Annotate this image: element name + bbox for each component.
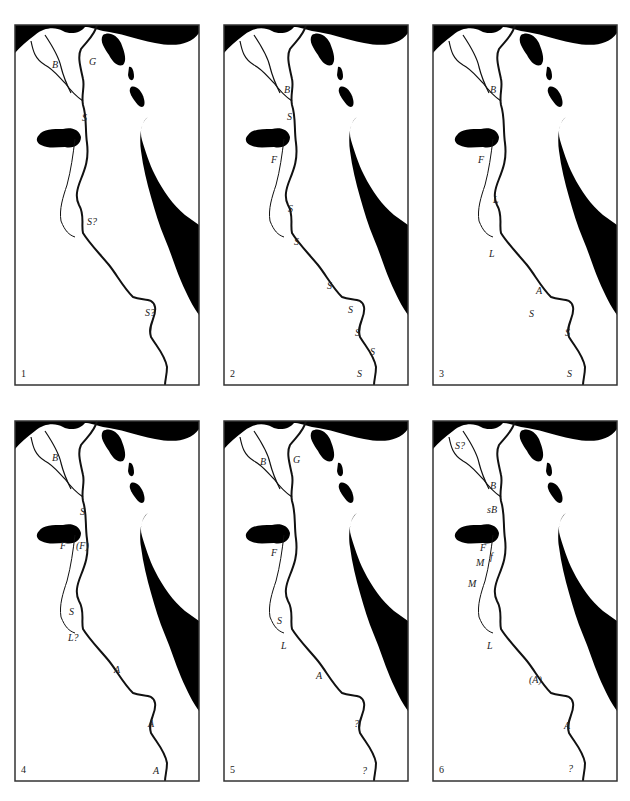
delta-west-branch bbox=[240, 437, 292, 497]
gulf-of-suez bbox=[520, 429, 543, 461]
island-1 bbox=[337, 67, 343, 80]
panel-number: 6 bbox=[439, 765, 444, 775]
site-label: S bbox=[348, 305, 353, 315]
site-label: S? bbox=[455, 441, 465, 451]
site-label: S? bbox=[87, 217, 97, 227]
map-panel-6: S?BsBFMfML(A)A?6 bbox=[433, 421, 617, 781]
island-1 bbox=[337, 463, 343, 476]
delta-west-branch bbox=[31, 437, 83, 497]
panel-number: 1 bbox=[21, 369, 26, 379]
gulf-of-suez bbox=[311, 429, 334, 461]
panel-number: 5 bbox=[230, 765, 235, 775]
gulf-of-suez bbox=[311, 33, 334, 65]
red-sea bbox=[349, 513, 408, 711]
site-label: B bbox=[52, 453, 58, 463]
site-label: M bbox=[476, 558, 484, 568]
island-2 bbox=[548, 483, 563, 503]
site-label: S bbox=[287, 112, 292, 122]
delta-west-branch bbox=[31, 41, 83, 101]
panel-number: 4 bbox=[21, 765, 26, 775]
island-2 bbox=[130, 87, 145, 107]
site-label: S bbox=[288, 204, 293, 214]
site-label: B bbox=[490, 85, 496, 95]
site-label: G bbox=[293, 455, 300, 465]
gulf-of-suez bbox=[102, 33, 125, 65]
gulf-of-suez bbox=[102, 429, 125, 461]
island-2 bbox=[339, 87, 354, 107]
red-sea bbox=[140, 513, 199, 711]
site-label: S bbox=[565, 328, 570, 338]
map-panel-1: BGSS?S?1 bbox=[15, 25, 199, 385]
map-panel-2: BSFSSSSSSS2 bbox=[224, 25, 408, 385]
site-label: B bbox=[260, 457, 266, 467]
panel-number: 2 bbox=[230, 369, 235, 379]
site-label: A bbox=[316, 671, 322, 681]
site-label: F bbox=[271, 548, 277, 558]
site-label: ? bbox=[568, 764, 573, 774]
site-label: ? bbox=[354, 719, 359, 729]
red-sea bbox=[558, 513, 617, 711]
red-sea bbox=[140, 117, 199, 315]
gulf-of-suez bbox=[520, 33, 543, 65]
site-label: S? bbox=[145, 308, 155, 318]
site-label: S bbox=[294, 237, 299, 247]
site-label: S bbox=[529, 309, 534, 319]
site-label: S bbox=[567, 369, 572, 379]
site-label: f bbox=[490, 552, 493, 562]
site-label: A bbox=[114, 665, 120, 675]
red-sea bbox=[558, 117, 617, 315]
site-label: S bbox=[80, 507, 85, 517]
site-label: B bbox=[490, 481, 496, 491]
site-label: (F) bbox=[76, 541, 89, 551]
delta-mid-branch bbox=[463, 431, 489, 489]
site-label: S bbox=[370, 347, 375, 357]
site-label: L bbox=[281, 641, 287, 651]
site-label: A bbox=[564, 721, 570, 731]
site-label: B bbox=[284, 85, 290, 95]
site-label: L bbox=[487, 641, 493, 651]
island-1 bbox=[546, 463, 552, 476]
site-label: M bbox=[468, 579, 476, 589]
site-label: B bbox=[52, 60, 58, 70]
site-label: S bbox=[82, 113, 87, 123]
delta-mid-branch bbox=[254, 35, 280, 93]
site-label: S bbox=[357, 369, 362, 379]
map-panel-4: BSF(F)SL?AAA4 bbox=[15, 421, 199, 781]
site-label: L bbox=[493, 195, 499, 205]
site-label: G bbox=[89, 57, 96, 67]
site-label: F bbox=[271, 155, 277, 165]
red-sea bbox=[349, 117, 408, 315]
delta-mid-branch bbox=[254, 431, 280, 489]
site-label: sB bbox=[487, 505, 497, 515]
site-label: S bbox=[69, 607, 74, 617]
site-label: S bbox=[327, 281, 332, 291]
site-label: A bbox=[153, 766, 159, 776]
panel-number: 3 bbox=[439, 369, 444, 379]
site-label: F bbox=[60, 541, 66, 551]
island-2 bbox=[339, 483, 354, 503]
island-2 bbox=[548, 87, 563, 107]
site-label: S bbox=[277, 616, 282, 626]
island-1 bbox=[546, 67, 552, 80]
site-label: (A) bbox=[529, 675, 542, 685]
bahr-yusuf bbox=[60, 139, 75, 237]
site-label: F bbox=[480, 543, 486, 553]
site-label: L bbox=[489, 249, 495, 259]
site-label: F bbox=[478, 155, 484, 165]
map-panel-3: BFLLASSS3 bbox=[433, 25, 617, 385]
island-1 bbox=[128, 67, 134, 80]
island-1 bbox=[128, 463, 134, 476]
site-label: L? bbox=[68, 633, 79, 643]
delta-mid-branch bbox=[463, 35, 489, 93]
site-label: S bbox=[355, 328, 360, 338]
map-panel-5: BGFSLA??5 bbox=[224, 421, 408, 781]
site-label: ? bbox=[362, 766, 367, 776]
site-label: A bbox=[148, 719, 154, 729]
site-label: A bbox=[536, 286, 542, 296]
island-2 bbox=[130, 483, 145, 503]
